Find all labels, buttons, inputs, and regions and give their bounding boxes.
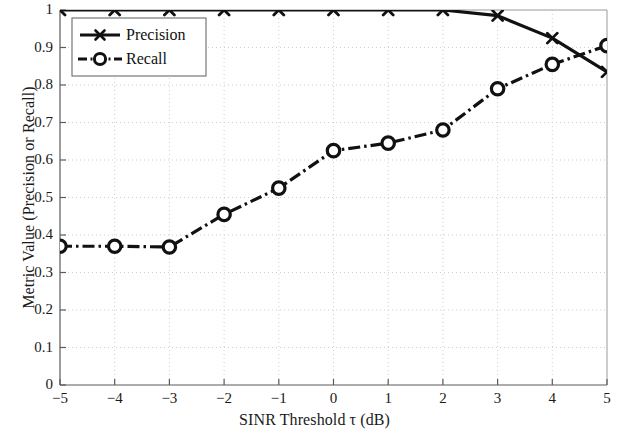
plot-canvas: [0, 0, 629, 437]
y-tick-label: 0.5: [13, 189, 53, 206]
y-tick-label: 0: [13, 376, 53, 393]
x-tick-label: 1: [368, 390, 408, 407]
y-tick-label: 0.8: [13, 76, 53, 93]
legend-label-precision: Precision: [126, 26, 186, 44]
y-tick-label: 1: [13, 1, 53, 18]
chart-figure: SINR Threshold τ (dB) Metric Value (Prec…: [0, 0, 629, 437]
y-tick-label: 0.1: [13, 339, 53, 356]
x-tick-label: 3: [478, 390, 518, 407]
x-tick-label: 4: [532, 390, 572, 407]
x-tick-label: −3: [149, 390, 189, 407]
x-tick-label: −1: [259, 390, 299, 407]
x-tick-label: 5: [587, 390, 627, 407]
x-tick-label: −4: [95, 390, 135, 407]
y-tick-label: 0.6: [13, 151, 53, 168]
y-tick-label: 0.4: [13, 226, 53, 243]
legend-label-recall: Recall: [126, 50, 167, 68]
y-tick-label: 0.2: [13, 301, 53, 318]
x-tick-label: −2: [204, 390, 244, 407]
y-tick-label: 0.7: [13, 114, 53, 131]
x-axis-title: SINR Threshold τ (dB): [0, 411, 629, 429]
x-tick-label: 0: [314, 390, 354, 407]
x-tick-label: 2: [423, 390, 463, 407]
y-tick-label: 0.9: [13, 39, 53, 56]
y-tick-label: 0.3: [13, 264, 53, 281]
